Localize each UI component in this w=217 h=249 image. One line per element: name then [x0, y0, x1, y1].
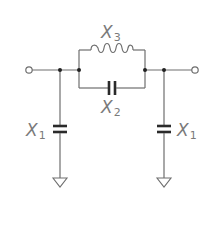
junction-dot — [58, 68, 62, 72]
junction-dot — [143, 68, 147, 72]
label-x1-left: X1 — [25, 120, 46, 142]
inductor-x3 — [79, 44, 145, 53]
junction-dot — [77, 68, 81, 72]
circuit-diagram: X3 X2 X1 X1 — [0, 0, 217, 249]
output-terminal — [192, 67, 198, 73]
capacitor-x1-left — [53, 70, 67, 178]
ground-icon — [157, 178, 171, 187]
capacitor-x2 — [79, 81, 145, 95]
ground-icon — [53, 178, 67, 187]
label-x2: X2 — [100, 97, 121, 119]
junction-dot — [162, 68, 166, 72]
label-x3: X3 — [100, 22, 121, 44]
input-terminal — [26, 67, 32, 73]
label-x1-right: X1 — [176, 120, 197, 142]
capacitor-x1-right — [157, 70, 171, 178]
